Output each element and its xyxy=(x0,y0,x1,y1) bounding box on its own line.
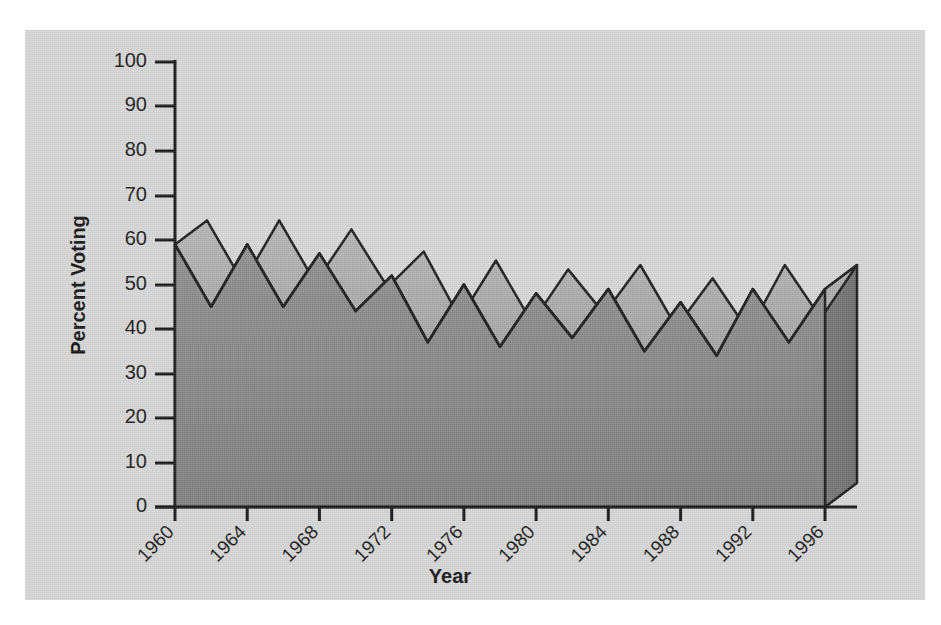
x-tick-label: 1964 xyxy=(205,521,250,566)
x-axis-title: Year xyxy=(429,565,471,587)
x-axis-tick-labels: 1960196419681972197619801984198819921996 xyxy=(133,521,828,566)
x-tick-label: 1992 xyxy=(711,521,756,566)
y-tick-label: 20 xyxy=(125,405,147,427)
y-tick-label: 30 xyxy=(125,361,147,383)
x-tick-label: 1960 xyxy=(133,521,178,566)
y-tick-label: 70 xyxy=(125,183,147,205)
x-tick-label: 1988 xyxy=(639,521,684,566)
area-chart-svg: 100 90 80 70 60 50 40 30 20 10 0 xyxy=(25,30,925,600)
y-axis xyxy=(155,60,175,509)
chart-panel: 100 90 80 70 60 50 40 30 20 10 0 xyxy=(25,30,925,600)
y-tick-label: 0 xyxy=(136,494,147,516)
y-tick-label: 60 xyxy=(125,227,147,249)
y-tick-label: 40 xyxy=(125,316,147,338)
x-tick-label: 1972 xyxy=(350,521,395,566)
y-axis-title: Percent Voting xyxy=(67,215,89,355)
x-tick-label: 1968 xyxy=(277,521,322,566)
chart-figure: 100 90 80 70 60 50 40 30 20 10 0 xyxy=(0,0,941,625)
y-tick-label: 80 xyxy=(125,138,147,160)
x-tick-label: 1984 xyxy=(566,521,611,566)
x-tick-label: 1976 xyxy=(422,521,467,566)
y-tick-label: 100 xyxy=(114,49,147,71)
y-tick-label: 10 xyxy=(125,450,147,472)
x-tick-label: 1980 xyxy=(494,521,539,566)
y-axis-tick-labels: 100 90 80 70 60 50 40 30 20 10 0 xyxy=(114,49,147,516)
area-series-3d xyxy=(175,220,857,507)
x-tick-label: 1996 xyxy=(783,521,828,566)
y-tick-label: 50 xyxy=(125,272,147,294)
x-axis xyxy=(155,507,857,521)
y-tick-label: 90 xyxy=(125,93,147,115)
